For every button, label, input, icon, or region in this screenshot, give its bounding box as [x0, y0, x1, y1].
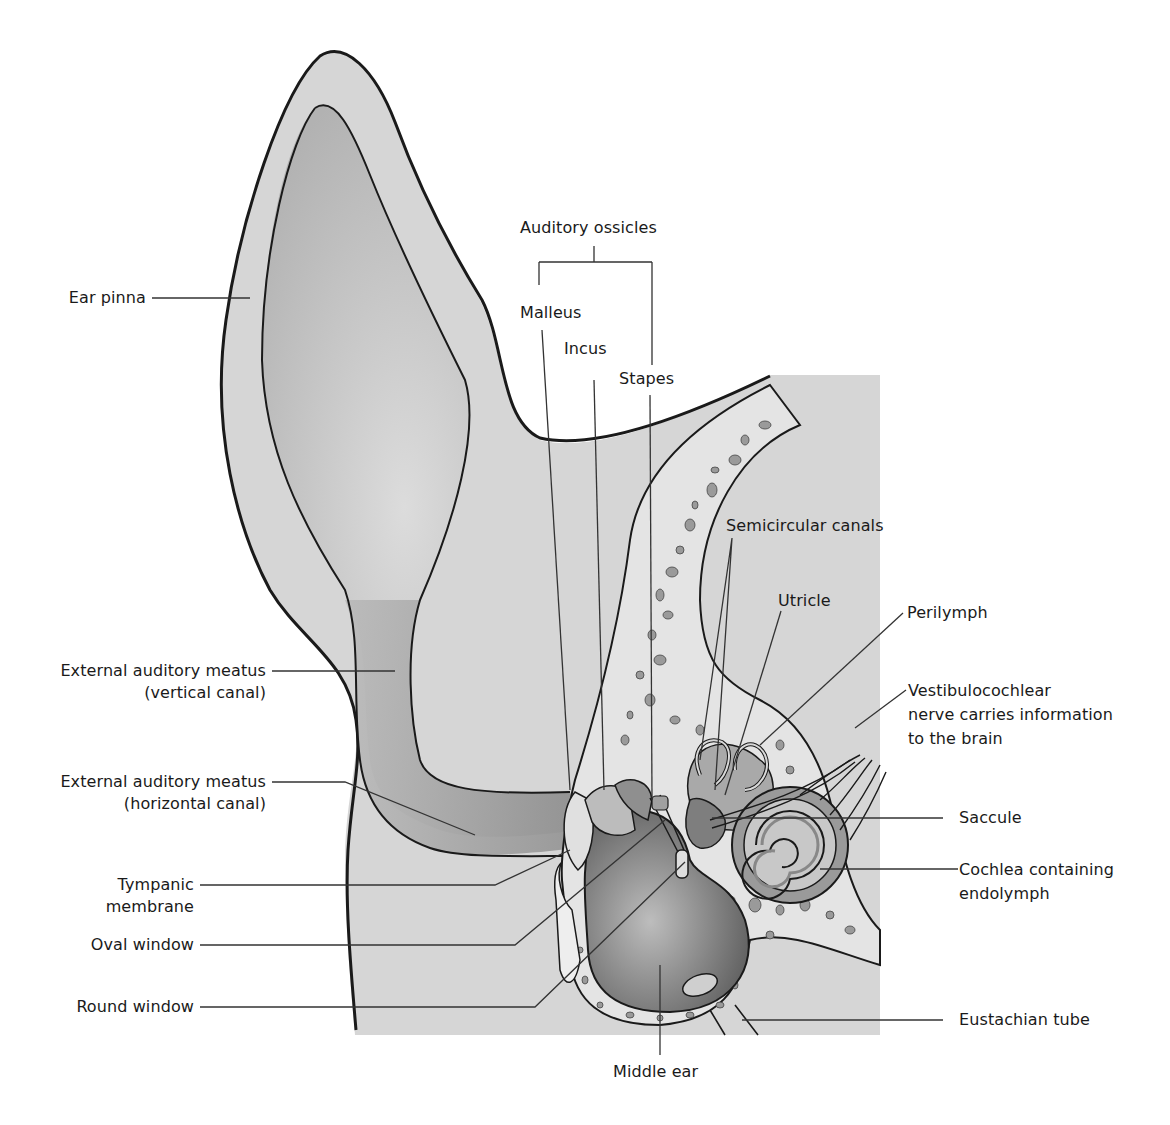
- label-round-window: Round window: [30, 996, 194, 1018]
- label-oval-window: Oval window: [40, 934, 194, 956]
- label-semicircular-canals: Semicircular canals: [726, 515, 884, 537]
- label-stapes: Stapes: [619, 368, 674, 390]
- label-vestibulocochlear-nerve: Vestibulocochlear nerve carries informat…: [908, 679, 1113, 751]
- label-perilymph: Perilymph: [907, 602, 988, 624]
- label-eustachian-tube: Eustachian tube: [959, 1009, 1090, 1031]
- label-tympanic-membrane: Tympanic membrane: [60, 874, 194, 918]
- label-cochlea: Cochlea containing endolymph: [959, 858, 1114, 906]
- label-eam-vertical-line2: (vertical canal): [10, 682, 266, 704]
- label-vestibulocochlear-line2: nerve carries information: [908, 703, 1113, 727]
- label-cochlea-line1: Cochlea containing: [959, 858, 1114, 882]
- label-saccule: Saccule: [959, 807, 1022, 829]
- label-vestibulocochlear-line1: Vestibulocochlear: [908, 679, 1113, 703]
- label-eam-horizontal-line1: External auditory meatus: [10, 771, 266, 793]
- label-utricle: Utricle: [778, 590, 831, 612]
- label-incus: Incus: [564, 338, 607, 360]
- ear-illustration: [0, 0, 1170, 1125]
- label-eam-vertical-line1: External auditory meatus: [10, 660, 266, 682]
- label-eam-horizontal: External auditory meatus (horizontal can…: [10, 771, 266, 815]
- label-auditory-ossicles: Auditory ossicles: [520, 217, 657, 239]
- label-eam-vertical: External auditory meatus (vertical canal…: [10, 660, 266, 704]
- label-cochlea-line2: endolymph: [959, 882, 1114, 906]
- label-eam-horizontal-line2: (horizontal canal): [10, 793, 266, 815]
- label-tympanic-line2: membrane: [60, 896, 194, 918]
- label-tympanic-line1: Tympanic: [60, 874, 194, 896]
- ear-anatomy-diagram: Auditory ossicles Malleus Incus Stapes E…: [0, 0, 1170, 1125]
- label-ear-pinna: Ear pinna: [30, 287, 146, 309]
- label-malleus: Malleus: [520, 302, 582, 324]
- label-vestibulocochlear-line3: to the brain: [908, 727, 1113, 751]
- label-middle-ear: Middle ear: [613, 1061, 698, 1083]
